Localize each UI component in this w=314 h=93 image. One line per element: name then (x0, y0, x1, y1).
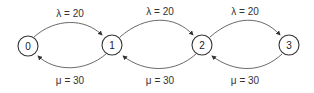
arrival-rate-label: λ = 20 (231, 6, 259, 17)
state-label: 2 (199, 40, 205, 51)
state-2: 2 (192, 35, 212, 55)
state-1: 1 (102, 35, 122, 55)
state-label: 1 (109, 40, 115, 51)
service-arc-2-1 (123, 54, 196, 69)
arrival-arc-2-3 (210, 20, 280, 37)
arrival-arc-1-2 (120, 20, 193, 37)
state-3: 3 (279, 35, 299, 55)
service-rate-label: μ = 30 (146, 75, 175, 86)
state-label: 3 (286, 40, 292, 51)
arrival-rate-label: λ = 20 (56, 8, 84, 19)
service-rate-label: μ = 30 (231, 75, 260, 86)
service-arc-1-0 (38, 54, 106, 68)
service-rate-label: μ = 30 (56, 75, 85, 86)
state-label: 0 (25, 41, 31, 52)
arrival-rate-label: λ = 20 (146, 6, 174, 17)
arrival-arc-0-1 (34, 22, 102, 37)
service-arc-3-2 (212, 54, 282, 69)
birth-death-diagram: 0 1 2 3 λ = 20 λ = 20 λ = 20 μ = 30 μ = … (0, 0, 314, 93)
state-0: 0 (18, 36, 38, 56)
